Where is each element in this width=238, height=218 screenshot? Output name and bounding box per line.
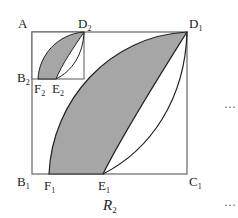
label-A: A (18, 16, 28, 31)
label-E1: E1 (98, 178, 110, 195)
ellipsis-top: … (224, 97, 237, 111)
label-C1: C1 (189, 174, 202, 191)
label-F1: F1 (44, 178, 55, 195)
label-D1: D1 (189, 16, 202, 33)
label-B2: B2 (17, 70, 30, 87)
ellipsis-bottom: … (224, 195, 237, 209)
label-D2: D2 (78, 16, 91, 33)
label-F2: F2 (34, 81, 45, 98)
figure-diagram: A D2 D1 B2 F2 E2 B1 F1 E1 C1 R2 … … (0, 0, 238, 218)
label-E2: E2 (52, 81, 64, 98)
label-B1: B1 (17, 174, 30, 191)
figure-caption: R2 (102, 197, 117, 215)
